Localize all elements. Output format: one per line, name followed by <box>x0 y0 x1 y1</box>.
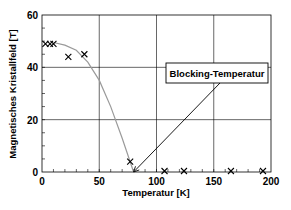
x-marker-icon <box>65 54 71 60</box>
data-points <box>42 41 266 174</box>
x-marker-icon <box>162 168 168 174</box>
x-marker-icon <box>50 41 56 47</box>
y-axis-label: Magnetisches Kristallfeld [T] <box>7 29 18 158</box>
x-tick-label: 50 <box>94 176 106 187</box>
x-marker-icon <box>181 168 187 174</box>
chart: 050100150200 0204060 Temperatur [K] Magn… <box>0 0 291 210</box>
x-tick-label: 200 <box>263 176 280 187</box>
annotation-label: Blocking-Temperatur <box>170 68 265 79</box>
annotation: Blocking-Temperatur <box>134 63 268 172</box>
x-tick-label: 0 <box>39 176 45 187</box>
y-tick-label: 0 <box>32 167 38 178</box>
x-marker-icon <box>81 51 87 57</box>
y-tick-label: 60 <box>27 10 39 21</box>
x-axis-label: Temperatur [K] <box>122 187 189 198</box>
y-tick-label: 40 <box>27 62 39 73</box>
y-tick-labels: 0204060 <box>27 10 39 178</box>
annotation-arrow <box>134 83 220 172</box>
x-tick-label: 100 <box>148 176 165 187</box>
x-marker-icon <box>260 168 266 174</box>
x-tick-labels: 050100150200 <box>39 176 280 187</box>
y-tick-label: 20 <box>27 115 39 126</box>
x-marker-icon <box>228 168 234 174</box>
fit-curve <box>54 43 134 173</box>
x-tick-label: 150 <box>205 176 222 187</box>
